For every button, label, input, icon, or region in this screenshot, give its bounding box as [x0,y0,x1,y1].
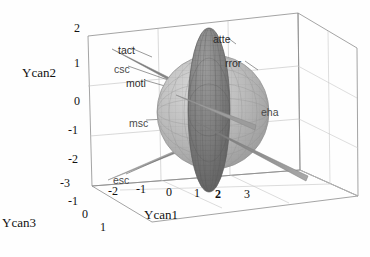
annotation-atte: atte [213,34,231,45]
y-tick-1: 1 [74,57,80,69]
annotation-beha: eha [261,107,279,118]
y-tick-2: 0 [74,95,80,107]
grid-lines-right [298,31,358,184]
y-tick-5: -3 [60,177,70,189]
axis-title-ycan2: Ycan2 [22,66,56,79]
z-tick-1: 0 [82,208,88,220]
x-tick-1: 1 [194,187,200,199]
x-tick-neg1: -1 [136,183,146,195]
x-tick-3: 3 [244,188,250,200]
annotation-csc: csc [114,64,130,75]
axis-title-ycan3: Ycan3 [2,216,36,229]
annotation-moti: moti [126,78,146,89]
y-tick-0: 2 [74,22,80,34]
y-tick-3: -1 [68,124,78,136]
canonical-variate-3d-plot [0,0,370,257]
x-tick-0: 0 [166,186,172,198]
z-tick-0: -1 [68,195,78,207]
x-tick-neg2: -2 [108,185,118,197]
chart-figure: Ycan2 Ycan1 Ycan3 2 1 0 -1 -2 -3 -2 -1 0… [0,0,370,257]
vertical-ellipsoid [188,28,232,194]
annotation-esc: esc [113,175,129,186]
axis-title-ycan1: Ycan1 [144,208,178,221]
grid-lines-floor [120,170,358,208]
y-tick-4: -2 [68,153,78,165]
x-tick-2: 2 [215,188,221,200]
annotation-error: rror [225,58,241,69]
annotation-msc: msc [129,118,148,129]
annotation-tact: tact [118,45,135,56]
z-tick-2: 1 [100,221,106,233]
